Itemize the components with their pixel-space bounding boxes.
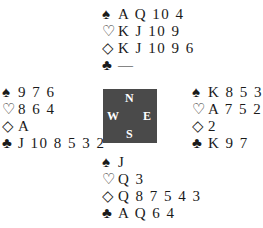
heart-icon: ♡ <box>102 171 118 188</box>
heart-icon: ♡ <box>192 101 208 118</box>
south-hearts: ♡Q 3 <box>102 171 202 188</box>
north-hearts: ♡K J 10 9 <box>102 23 195 40</box>
south-diamonds: ◇Q 8 7 5 4 3 <box>102 188 202 205</box>
spade-cards: 9 7 6 <box>18 84 56 101</box>
diamond-cards: A <box>18 118 30 135</box>
compass-east-label: E <box>143 110 151 122</box>
west-diamonds: ◇A <box>2 118 106 135</box>
diamond-icon: ◇ <box>102 188 118 205</box>
club-cards: K 9 7 <box>208 135 249 152</box>
heart-cards: 8 6 4 <box>18 101 56 118</box>
spade-icon: ♠ <box>102 154 118 171</box>
spade-cards: A Q 10 4 <box>118 6 185 23</box>
heart-icon: ♡ <box>102 23 118 40</box>
south-hand: ♠J ♡Q 3 ◇Q 8 7 5 4 3 ♣A Q 6 4 <box>102 154 202 222</box>
heart-cards: Q 3 <box>118 171 145 188</box>
east-spades: ♠K 8 5 3 2 <box>192 84 263 101</box>
east-clubs: ♣K 9 7 <box>192 135 263 152</box>
west-spades: ♠9 7 6 <box>2 84 106 101</box>
compass-table: N W E S <box>103 89 157 143</box>
east-diamonds: ◇2 <box>192 118 263 135</box>
north-diamonds: ◇K J 10 9 6 <box>102 40 195 57</box>
diamond-icon: ◇ <box>2 118 18 135</box>
compass-north-label: N <box>125 92 134 104</box>
west-hand: ♠9 7 6 ♡8 6 4 ◇A ♣J 10 8 5 3 2 <box>2 84 106 152</box>
club-cards: A Q 6 4 <box>118 205 176 222</box>
compass-west-label: W <box>107 110 119 122</box>
heart-cards: A 7 5 2 <box>208 101 262 118</box>
club-cards: J 10 8 5 3 2 <box>18 135 106 152</box>
east-hearts: ♡A 7 5 2 <box>192 101 263 118</box>
diamond-cards: Q 8 7 5 4 3 <box>118 188 202 205</box>
club-icon: ♣ <box>102 57 118 74</box>
east-hand: ♠K 8 5 3 2 ♡A 7 5 2 ◇2 ♣K 9 7 <box>192 84 263 152</box>
diamond-cards: 2 <box>208 118 217 135</box>
club-icon: ♣ <box>2 135 18 152</box>
north-clubs: ♣— <box>102 57 195 74</box>
spade-icon: ♠ <box>102 6 118 23</box>
north-hand: ♠A Q 10 4 ♡K J 10 9 ◇K J 10 9 6 ♣— <box>102 6 195 74</box>
heart-cards: K J 10 9 <box>118 23 180 40</box>
club-icon: ♣ <box>102 205 118 222</box>
diamond-icon: ◇ <box>102 40 118 57</box>
south-clubs: ♣A Q 6 4 <box>102 205 202 222</box>
spade-icon: ♠ <box>192 84 208 101</box>
diamond-cards: K J 10 9 6 <box>118 40 195 57</box>
spade-icon: ♠ <box>2 84 18 101</box>
heart-icon: ♡ <box>2 101 18 118</box>
south-spades: ♠J <box>102 154 202 171</box>
compass-south-label: S <box>126 128 133 140</box>
north-spades: ♠A Q 10 4 <box>102 6 195 23</box>
diamond-icon: ◇ <box>192 118 208 135</box>
west-clubs: ♣J 10 8 5 3 2 <box>2 135 106 152</box>
spade-cards: J <box>118 154 125 171</box>
spade-cards: K 8 5 3 2 <box>208 84 263 101</box>
club-cards: — <box>118 57 135 74</box>
club-icon: ♣ <box>192 135 208 152</box>
west-hearts: ♡8 6 4 <box>2 101 106 118</box>
